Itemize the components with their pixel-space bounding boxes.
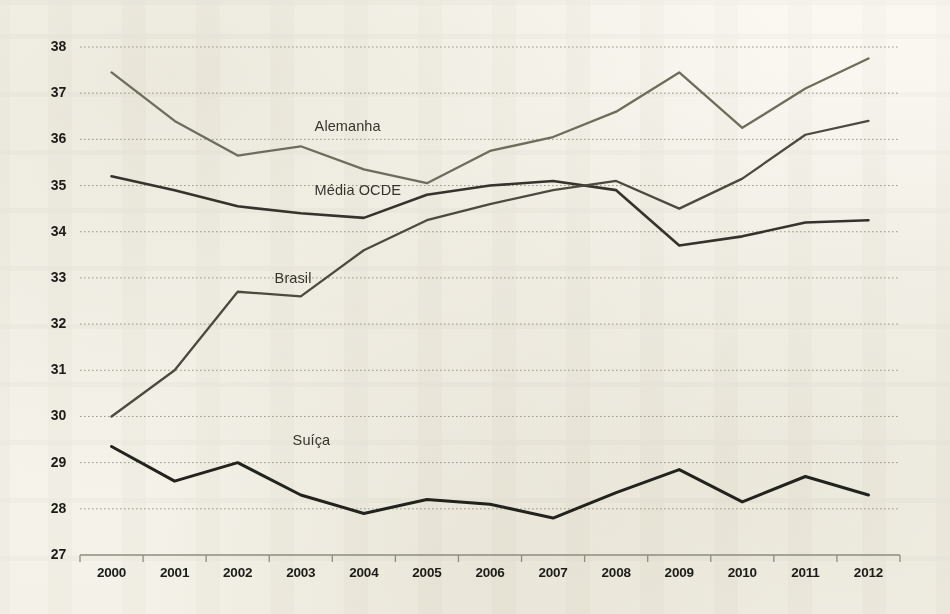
x-tick-label: 2000 [84,565,140,580]
y-tick-label: 31 [32,361,66,377]
x-tick-label: 2005 [399,565,455,580]
series-line-su-a [112,446,869,518]
series-line-alemanha [112,59,869,184]
x-tick-label: 2010 [714,565,770,580]
x-tick-label: 2001 [147,565,203,580]
y-tick-label: 34 [32,223,66,239]
data-series-group [112,59,869,519]
y-tick-label: 37 [32,84,66,100]
y-tick-label: 36 [32,130,66,146]
y-tick-label: 32 [32,315,66,331]
x-tick-label: 2006 [462,565,518,580]
y-tick-label: 30 [32,407,66,423]
x-tick-label: 2012 [840,565,896,580]
series-line-m-dia-ocde [112,176,869,245]
y-tick-label: 33 [32,269,66,285]
x-axis-ticks [80,555,900,562]
series-label-alemanha: Alemanha [315,118,381,134]
x-tick-label: 2007 [525,565,581,580]
y-tick-label: 29 [32,454,66,470]
series-label-m-dia-ocde: Média OCDE [315,182,401,198]
x-tick-label: 2002 [210,565,266,580]
y-tick-label: 35 [32,177,66,193]
x-tick-label: 2008 [588,565,644,580]
y-tick-label: 38 [32,38,66,54]
series-label-brasil: Brasil [275,270,312,286]
x-tick-label: 2011 [777,565,833,580]
plot-area [0,0,950,614]
y-tick-label: 28 [32,500,66,516]
series-label-su-a: Suíça [293,432,331,448]
series-line-brasil [112,121,869,417]
x-tick-label: 2003 [273,565,329,580]
x-tick-label: 2009 [651,565,707,580]
y-tick-label: 27 [32,546,66,562]
line-chart: 383736353433323130292827 200020012002200… [0,0,950,614]
x-tick-label: 2004 [336,565,392,580]
gridlines [80,47,900,509]
